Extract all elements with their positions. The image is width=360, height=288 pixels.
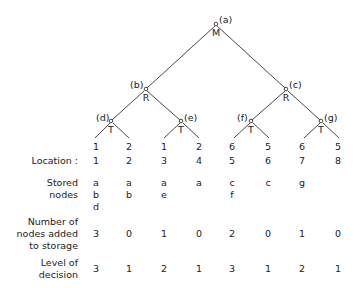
added-value: 1 (161, 228, 167, 239)
leaf-value: 6 (299, 141, 305, 152)
leaf-value: 1 (161, 141, 167, 152)
location-value: 4 (196, 155, 202, 166)
added-value: 2 (229, 228, 235, 239)
node-c-icon (284, 87, 288, 91)
stored-node: a (126, 177, 132, 188)
added-value: 1 (299, 228, 305, 239)
node-e-type: T (178, 124, 184, 135)
level-value: 1 (126, 263, 132, 274)
stored-node: c (229, 177, 234, 188)
stored-label: Stored (47, 177, 78, 188)
location-value: 5 (229, 155, 235, 166)
location-value: 6 (265, 155, 271, 166)
location-label: Location : (32, 155, 78, 166)
stored-node: c (265, 177, 270, 188)
node-a-label: (a) (219, 14, 232, 25)
level-value: 2 (299, 263, 305, 274)
node-d-type: T (108, 124, 114, 135)
level-value: 1 (196, 263, 202, 274)
stored-node: a (161, 177, 167, 188)
node-d-label: (d) (96, 112, 109, 123)
leaf-value: 2 (126, 141, 132, 152)
leaf-value: 1 (93, 141, 99, 152)
location-value: 2 (126, 155, 132, 166)
leaf-value: 6 (229, 141, 235, 152)
node-a-icon (214, 22, 218, 26)
level-label: Level of (41, 257, 78, 268)
location-value: 3 (161, 155, 167, 166)
location-value: 1 (93, 155, 99, 166)
node-f-icon (249, 119, 253, 123)
node-a-type: M (212, 27, 220, 38)
stored-node: g (299, 177, 305, 188)
node-f-type: T (248, 124, 254, 135)
node-g-icon (319, 119, 323, 123)
node-g-type: T (318, 124, 324, 135)
added-value: 0 (196, 228, 202, 239)
node-g-label: (g) (324, 112, 337, 123)
level-value: 1 (265, 263, 271, 274)
stored-node: f (230, 189, 233, 200)
location-value: 7 (299, 155, 305, 166)
leaf-value: 5 (335, 141, 341, 152)
stored-node: d (93, 201, 99, 212)
added-label: Number of (28, 216, 78, 227)
added-label: nodes added (17, 228, 78, 239)
node-d-icon (109, 119, 113, 123)
leaf-value: 5 (265, 141, 271, 152)
level-value: 3 (229, 263, 235, 274)
node-b-label: (b) (130, 79, 143, 90)
node-f-label: (f) (237, 112, 248, 123)
node-c-type: R (283, 92, 290, 103)
node-b-icon (144, 87, 148, 91)
stored-node: a (93, 177, 99, 188)
node-c-label: (c) (289, 79, 302, 90)
added-label: to storage (29, 240, 78, 251)
added-value: 3 (93, 228, 99, 239)
stored-node: b (93, 189, 99, 200)
level-value: 3 (93, 263, 99, 274)
added-value: 0 (335, 228, 341, 239)
stored-label: nodes (49, 189, 78, 200)
location-value: 8 (335, 155, 341, 166)
added-value: 0 (126, 228, 132, 239)
level-label: decision (39, 269, 78, 280)
leaf-value: 2 (196, 141, 202, 152)
stored-node: b (126, 189, 132, 200)
added-value: 0 (265, 228, 271, 239)
level-value: 2 (161, 263, 167, 274)
level-value: 1 (335, 263, 341, 274)
node-e-label: (e) (184, 112, 197, 123)
node-e-icon (179, 119, 183, 123)
stored-node: a (196, 177, 202, 188)
stored-node: e (161, 189, 167, 200)
node-b-type: R (143, 92, 150, 103)
